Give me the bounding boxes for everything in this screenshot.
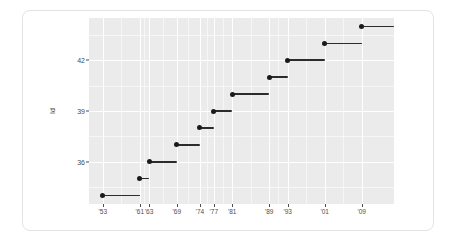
- x-tick-label-53: '53: [99, 209, 107, 216]
- data-point: [211, 109, 216, 114]
- x-tick-mark: [232, 204, 233, 207]
- data-point: [359, 24, 364, 29]
- x-tick-label-01: '01: [320, 209, 328, 216]
- gridline-y-42: [89, 60, 394, 61]
- gridline-minor-y: [89, 187, 394, 188]
- x-tick-label-61: '61: [136, 209, 144, 216]
- data-point: [100, 193, 105, 198]
- y-axis-title: Id: [49, 108, 56, 114]
- chart-panel: [89, 18, 394, 204]
- data-segment: [149, 161, 177, 163]
- data-point: [147, 159, 152, 164]
- x-tick-label-81: '81: [228, 209, 236, 216]
- data-point: [267, 75, 272, 80]
- y-tick-label-39: 39: [77, 108, 85, 115]
- data-point: [285, 58, 290, 63]
- data-segment: [214, 110, 232, 112]
- x-tick-mark: [325, 204, 326, 207]
- y-axis-tick-labels: 363942: [59, 18, 85, 204]
- y-tick-mark: [86, 111, 89, 112]
- data-point: [197, 125, 202, 130]
- y-tick-label-36: 36: [77, 158, 85, 165]
- x-tick-label-09: '09: [357, 209, 365, 216]
- y-axis-tick-marks: [85, 18, 89, 204]
- data-segment: [325, 43, 362, 45]
- x-tick-mark: [269, 204, 270, 207]
- plot-area: 363942 '53'61'63'69'74'77'81'89'93'01'09…: [23, 11, 435, 232]
- gridline-minor-y: [89, 86, 394, 87]
- gridline-minor-y: [89, 35, 394, 36]
- x-tick-mark: [149, 204, 150, 207]
- x-tick-label-93: '93: [283, 209, 291, 216]
- data-segment: [362, 26, 394, 28]
- x-tick-mark: [103, 204, 104, 207]
- chart-card: 363942 '53'61'63'69'74'77'81'89'93'01'09…: [22, 10, 434, 231]
- data-point: [230, 92, 235, 97]
- gridline-y-39: [89, 111, 394, 112]
- x-tick-mark: [362, 204, 363, 207]
- y-tick-label-42: 42: [77, 57, 85, 64]
- gridline-y-36: [89, 162, 394, 163]
- x-tick-label-89: '89: [265, 209, 273, 216]
- x-tick-label-74: '74: [196, 209, 204, 216]
- data-point: [137, 176, 142, 181]
- data-segment: [288, 59, 325, 61]
- x-tick-mark: [200, 204, 201, 207]
- data-point: [322, 41, 327, 46]
- x-tick-label-69: '69: [173, 209, 181, 216]
- data-segment: [232, 93, 269, 95]
- data-segment: [269, 76, 287, 78]
- data-segment: [177, 144, 200, 146]
- x-tick-label-77: '77: [210, 209, 218, 216]
- x-tick-mark: [288, 204, 289, 207]
- y-tick-mark: [86, 60, 89, 61]
- x-tick-mark: [214, 204, 215, 207]
- x-axis-tick-labels: '53'61'63'69'74'77'81'89'93'01'09: [89, 209, 394, 221]
- gridline-minor-y: [89, 136, 394, 137]
- x-tick-mark: [177, 204, 178, 207]
- y-tick-mark: [86, 161, 89, 162]
- x-tick-label-63: '63: [145, 209, 153, 216]
- data-point: [174, 142, 179, 147]
- x-tick-mark: [140, 204, 141, 207]
